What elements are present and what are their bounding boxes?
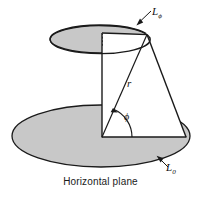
upper-plane-label-subscript: ϕ — [158, 12, 162, 20]
figure-caption: Horizontal plane — [0, 176, 201, 187]
radius-label: r — [127, 78, 131, 89]
lower-plane-label-subscript: 0 — [172, 168, 176, 176]
angle-label: ϕ — [124, 112, 129, 122]
cone-diagram-figure: Lϕ L0 r ϕ Horizontal plane — [0, 0, 201, 197]
upper-plane-label: Lϕ — [152, 6, 162, 20]
lower-plane-label: L0 — [166, 162, 176, 176]
